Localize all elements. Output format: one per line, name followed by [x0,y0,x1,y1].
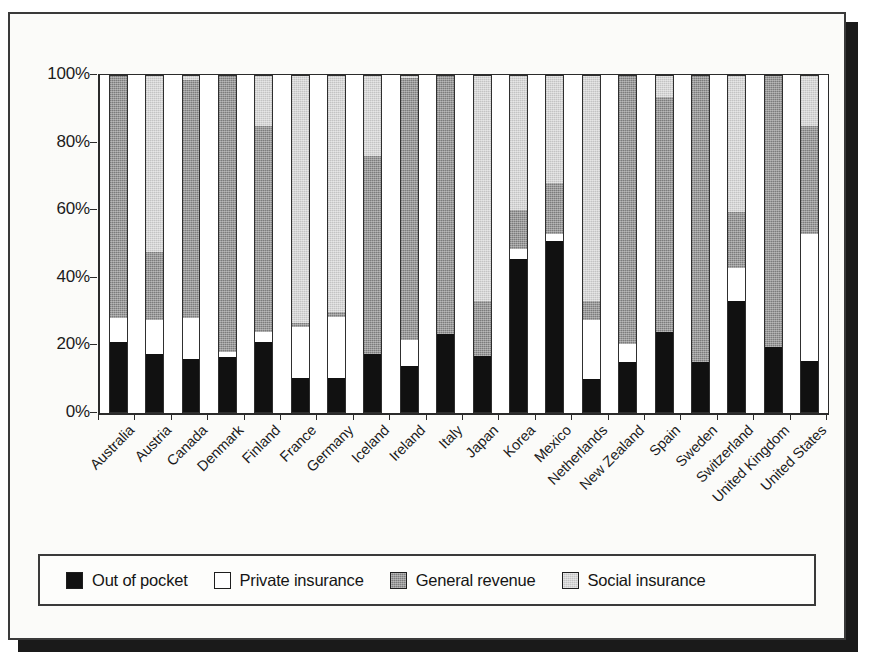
legend-item-label: Out of pocket [92,571,188,590]
bar-segment [545,183,564,234]
bar-segment [182,80,201,318]
bar-stack [764,75,783,413]
bar-column[interactable] [473,75,492,413]
bar-series-group [100,75,828,413]
bar-stack [218,75,237,413]
legend-item[interactable]: Private insurance [214,571,364,590]
bar-segment [800,75,819,126]
bar-segment [291,327,310,378]
bar-stack [727,75,746,413]
bar-segment [727,212,746,268]
bar-segment [582,320,601,379]
x-axis-tick-label: Iceland [348,422,392,466]
bar-segment [582,301,601,320]
bar-stack [473,75,492,413]
plot-region: 0%20%40%60%80%100% AustraliaAustriaCanad… [10,14,848,534]
bar-column[interactable] [800,75,819,413]
legend-item-label: General revenue [416,571,536,590]
y-axis-tick-mark [90,209,97,210]
y-axis-tick-label: 20% [38,334,90,354]
bar-segment [218,357,237,413]
bar-segment [291,75,310,323]
bar-segment [109,318,128,342]
legend-item[interactable]: Social insurance [562,571,706,590]
bar-stack [618,75,637,413]
bar-segment [545,241,564,413]
bar-segment [327,75,346,312]
bar-segment [800,126,819,234]
legend-swatch-light-gray [562,572,579,589]
y-axis-tick-label: 60% [38,199,90,219]
y-axis-tick-label: 0% [38,402,90,422]
bar-column[interactable] [545,75,564,413]
y-axis-tick-mark [90,344,97,345]
bar-segment [400,78,419,340]
bar-column[interactable] [254,75,273,413]
bar-column[interactable] [727,75,746,413]
x-axis-tick-label: Italy [435,422,465,452]
bar-segment [327,317,346,378]
legend-item-label: Social insurance [588,571,706,590]
bar-segment [109,75,128,318]
bar-segment [800,361,819,413]
bar-column[interactable] [509,75,528,413]
bar-column[interactable] [618,75,637,413]
bar-column[interactable] [109,75,128,413]
y-axis-tick-mark [90,74,97,75]
bar-column[interactable] [291,75,310,413]
bar-segment [764,75,783,347]
bar-segment [473,356,492,413]
bar-segment [254,75,273,126]
bar-stack [400,75,419,413]
chart-figure-frame: 0%20%40%60%80%100% AustraliaAustriaCanad… [8,12,846,640]
bar-column[interactable] [145,75,164,413]
bar-segment [509,259,528,413]
legend-item[interactable]: Out of pocket [66,571,188,590]
bar-segment [727,75,746,212]
bar-column[interactable] [327,75,346,413]
bar-segment [363,75,382,156]
bar-segment [545,234,564,241]
bar-segment [145,320,164,354]
bar-stack [327,75,346,413]
bar-stack [363,75,382,413]
bar-segment [145,354,164,413]
plot-area [98,74,829,415]
bar-segment [800,234,819,361]
bar-column[interactable] [691,75,710,413]
bar-column[interactable] [182,75,201,413]
bar-segment [327,378,346,413]
bar-column[interactable] [363,75,382,413]
legend-swatch-white [214,572,231,589]
bar-segment [254,342,273,413]
bar-stack [291,75,310,413]
legend-swatch-dark-gray [390,572,407,589]
x-axis-labels: AustraliaAustriaCanadaDenmarkFinlandFran… [98,418,828,530]
bar-column[interactable] [655,75,674,413]
bar-stack [545,75,564,413]
bar-segment [727,268,746,302]
bar-segment [509,249,528,259]
bar-segment [291,378,310,413]
bar-segment [218,75,237,352]
bar-segment [509,75,528,210]
bar-column[interactable] [436,75,455,413]
bar-column[interactable] [218,75,237,413]
bar-segment [655,332,674,413]
bar-segment [764,347,783,413]
bar-segment [655,75,674,97]
bar-segment [473,301,492,355]
bar-column[interactable] [400,75,419,413]
legend-item[interactable]: General revenue [390,571,536,590]
bar-segment [145,252,164,320]
bar-stack [582,75,601,413]
bar-segment [618,344,637,363]
bar-segment [473,75,492,301]
bar-stack [145,75,164,413]
bar-segment [545,75,564,183]
bar-segment [436,334,455,413]
bar-column[interactable] [582,75,601,413]
bar-segment [254,126,273,332]
bar-segment [363,354,382,413]
bar-column[interactable] [764,75,783,413]
